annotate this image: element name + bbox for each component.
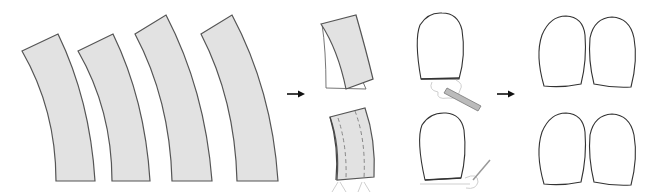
curved-strips-group — [22, 15, 278, 181]
curved-strip-4 — [201, 15, 278, 181]
folded-strip — [321, 15, 373, 89]
pouch-trimming — [417, 13, 481, 111]
finished-pouch-3 — [539, 113, 586, 185]
arrow-right-icon — [497, 91, 515, 98]
arrow-right-icon — [287, 91, 305, 98]
finished-pouches — [539, 16, 636, 185]
finished-pouch-4 — [590, 114, 636, 185]
trimming-tool-icon — [444, 88, 481, 111]
finished-pouch-1 — [539, 16, 586, 87]
process-diagram — [0, 0, 659, 195]
finished-pouch-2 — [590, 17, 636, 87]
needle-icon — [473, 160, 490, 180]
stitched-strip — [330, 108, 374, 192]
pouch-sewing — [420, 113, 490, 188]
